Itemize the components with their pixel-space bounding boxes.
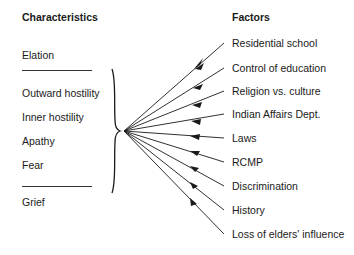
- factor-discrimination: Discrimination: [232, 180, 298, 192]
- grouping-brace: [112, 69, 120, 193]
- factor-residential-school: Residential school: [232, 37, 317, 49]
- factor-indian-affairs-dept: Indian Affairs Dept.: [232, 108, 321, 120]
- factor-history: History: [232, 204, 265, 216]
- factor-laws: Laws: [232, 132, 257, 144]
- factor-control-of-education: Control of education: [232, 62, 326, 74]
- factor-rcmp: RCMP: [232, 156, 263, 168]
- arrowheads: [190, 63, 204, 206]
- factor-religion-vs-culture: Religion vs. culture: [232, 85, 321, 97]
- factor-loss-of-elders-influence: Loss of elders' influence: [232, 228, 344, 240]
